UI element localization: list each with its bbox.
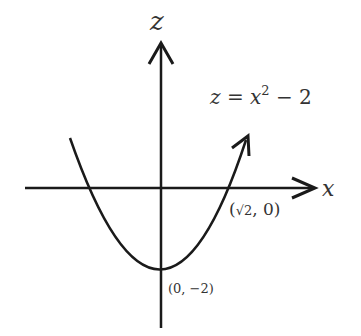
x-axis (25, 178, 315, 198)
vertex-point-label: (0, −2) (168, 281, 214, 296)
z-axis-label: z (149, 6, 164, 36)
equation-lhs: z = x (209, 85, 261, 109)
root-point-label: (√2, 0) (229, 199, 280, 219)
parabola-curve (70, 136, 249, 270)
equation-exponent: 2 (261, 83, 269, 98)
equation-rhs: − 2 (270, 85, 312, 109)
parabola-diagram: z x z = x2 − 2 (√2, 0) (0, −2) (0, 0, 361, 336)
equation-label: z = x2 − 2 (209, 83, 312, 109)
x-axis-label: x (322, 176, 335, 201)
